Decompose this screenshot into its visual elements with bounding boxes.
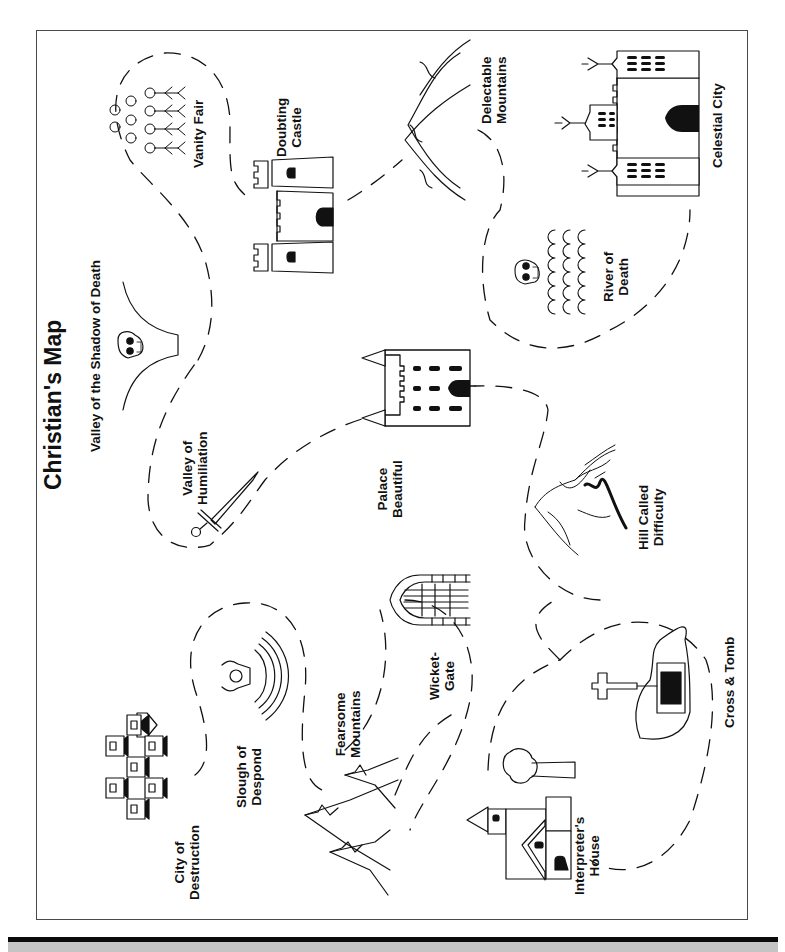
- label-line: Mountains: [494, 56, 509, 124]
- label-line: Difficulty: [651, 485, 666, 550]
- label-line: Destruction: [187, 825, 202, 900]
- label-delectable-mountains: Delectable Mountains: [479, 56, 509, 124]
- label-wicket-gate: Wicket- Gate: [427, 652, 457, 700]
- cross-tomb-icon: [592, 627, 690, 739]
- label-city-of-destruction: City of Destruction: [172, 825, 202, 900]
- label-line: Fearsome: [333, 691, 348, 759]
- label-cross-and-tomb: Cross & Tomb: [722, 637, 737, 728]
- gate-icon: [390, 575, 470, 625]
- house-with-tree-icon: [467, 749, 575, 880]
- label-line: Humiliation: [195, 432, 210, 506]
- celestial-city-icon: [555, 51, 699, 196]
- palace-icon: [362, 350, 475, 426]
- label-line: City of: [172, 825, 187, 900]
- label-line: Castle: [289, 98, 304, 157]
- label-line: Vanity Fair: [191, 100, 206, 168]
- label-line: Gate: [442, 652, 457, 700]
- label-line: Mountains: [348, 691, 363, 759]
- label-celestial-city: Celestial City: [710, 83, 725, 168]
- label-palace-beautiful: Palace Beautiful: [375, 460, 405, 518]
- houses-icon: [106, 713, 167, 819]
- label-line: Valley of: [180, 432, 195, 506]
- label-line: Palace: [375, 460, 390, 518]
- label-fearsome-mountains: Fearsome Mountains: [333, 691, 363, 759]
- label-line: Interpreter's: [572, 817, 587, 895]
- label-line: Cross & Tomb: [722, 637, 737, 728]
- skull-river-icon: [515, 230, 585, 314]
- label-hill-called-difficulty: Hill Called Difficulty: [636, 485, 666, 550]
- label-line: Beautiful: [390, 460, 405, 518]
- mountains-icon: [405, 40, 470, 200]
- crowd-icon: [110, 87, 185, 154]
- label-line: Valley of the Shadow of Death: [88, 260, 103, 452]
- label-valley-of-humiliation: Valley of Humiliation: [180, 432, 210, 506]
- label-line: River of: [601, 252, 616, 302]
- skull-valley-icon: [118, 282, 178, 410]
- label-line: Death: [616, 252, 631, 302]
- label-line: Celestial City: [710, 83, 725, 168]
- label-valley-of-shadow: Valley of the Shadow of Death: [88, 260, 103, 452]
- label-interpreters-house: Interpreter's House: [572, 817, 602, 895]
- label-line: Hill Called: [636, 485, 651, 550]
- label-line: Wicket-: [427, 652, 442, 700]
- label-line: Slough of: [234, 746, 249, 808]
- map-title: Christian's Map: [40, 320, 67, 490]
- sinking-figure-icon: [222, 632, 289, 720]
- label-line: Despond: [249, 746, 264, 808]
- label-slough-of-despond: Slough of Despond: [234, 746, 264, 808]
- castle-icon: [254, 157, 333, 273]
- jagged-mountains-icon: [305, 758, 398, 895]
- label-river-of-death: River of Death: [601, 252, 631, 302]
- label-line: Delectable: [479, 56, 494, 124]
- label-line: Doubting: [274, 98, 289, 157]
- hill-icon: [535, 445, 626, 555]
- label-doubting-castle: Doubting Castle: [274, 98, 304, 157]
- label-vanity-fair: Vanity Fair: [191, 100, 206, 168]
- label-line: House: [587, 817, 602, 895]
